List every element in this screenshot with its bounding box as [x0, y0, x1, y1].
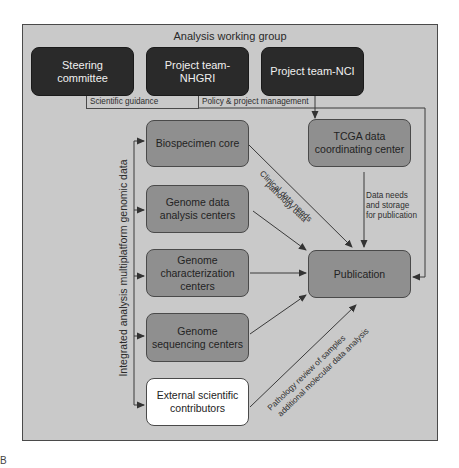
genome-sequencing-centers-box: Genome sequencing centers: [146, 313, 249, 362]
publication-box: Publication: [308, 250, 411, 298]
project-team-nhgri-box: Project team-NHGRI: [146, 47, 249, 96]
genome-characterization-centers-label: Genome characterization centers: [151, 254, 244, 293]
dcc-edge-label-line2: and storage: [366, 201, 409, 210]
dcc-edge-label-line3: for publication: [366, 211, 417, 220]
scientific-guidance-label: Scientific guidance: [86, 96, 199, 109]
project-team-nci-box: Project team-NCI: [261, 47, 364, 96]
policy-management-label: Policy & project management: [198, 96, 314, 109]
steering-committee-box: Steering committee: [31, 47, 134, 96]
external-scientific-contributors-box: External scientific contributors: [146, 378, 249, 426]
integrated-analysis-vertical-label: Integrated analysis multiplatform genomi…: [117, 138, 129, 398]
dcc-edge-label-line1: Data needs: [366, 191, 408, 200]
biospecimen-core-label: Biospecimen core: [156, 137, 239, 150]
project-team-nhgri-label: Project team-NHGRI: [151, 59, 244, 85]
genome-data-analysis-centers-box: Genome data analysis centers: [146, 185, 249, 233]
biospecimen-core-box: Biospecimen core: [146, 120, 249, 167]
publication-label: Publication: [334, 268, 385, 281]
genome-characterization-centers-box: Genome characterization centers: [146, 249, 249, 297]
panel-letter: B: [0, 455, 7, 466]
genome-sequencing-centers-label: Genome sequencing centers: [151, 325, 244, 351]
steering-committee-label: Steering committee: [36, 59, 129, 85]
tcga-data-coordinating-center-label: TCGA data coordinating center: [313, 130, 406, 156]
project-team-nci-label: Project team-NCI: [270, 65, 354, 78]
external-scientific-contributors-label: External scientific contributors: [151, 389, 244, 415]
tcga-data-coordinating-center-box: TCGA data coordinating center: [308, 119, 411, 167]
genome-data-analysis-centers-label: Genome data analysis centers: [151, 196, 244, 222]
